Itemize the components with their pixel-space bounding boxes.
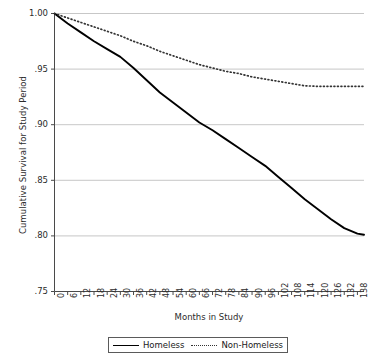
chart-legend: Homeless Non-Homeless	[108, 337, 288, 353]
series-line-non-homeless	[55, 14, 365, 87]
legend-line-solid-icon	[113, 345, 139, 346]
x-axis-tick-label: 138	[361, 282, 369, 297]
x-axis-tick-label: 24	[111, 287, 119, 297]
survival-chart: Cumulative Survival for Study Period .75…	[0, 0, 375, 357]
x-axis-tick-label: 30	[124, 287, 132, 297]
x-axis-tick-label: 48	[163, 287, 171, 297]
x-axis-tick-label: 102	[282, 282, 290, 297]
legend-label-non-homeless: Non-Homeless	[221, 340, 283, 350]
x-axis-tick-label: 54	[177, 287, 185, 297]
x-axis-tick-label: 120	[322, 282, 330, 297]
legend-item-homeless: Homeless	[113, 340, 185, 350]
x-axis-tick-label: 114	[308, 282, 316, 297]
x-axis-tick-label: 42	[150, 287, 158, 297]
x-axis-tick-label: 6	[71, 292, 79, 297]
x-axis-title: Months in Study	[54, 312, 364, 322]
legend-line-dotted-icon	[191, 345, 217, 346]
legend-item-non-homeless: Non-Homeless	[191, 340, 283, 350]
x-axis-tick-label: 12	[84, 287, 92, 297]
legend-label-homeless: Homeless	[143, 340, 185, 350]
x-axis-tick-label: 36	[137, 287, 145, 297]
x-axis-tick-label: 84	[242, 287, 250, 297]
x-axis-tick-label: 66	[203, 287, 211, 297]
plot-area	[0, 0, 375, 357]
x-axis-tick-label: 0	[58, 292, 66, 297]
x-axis-tick-label: 108	[295, 282, 303, 297]
x-axis-tick-label: 126	[335, 282, 343, 297]
x-axis-tick-label: 18	[98, 287, 106, 297]
x-axis-tick-label: 132	[348, 282, 356, 297]
x-axis-tick-label: 90	[256, 287, 264, 297]
x-axis-tick-label: 96	[269, 287, 277, 297]
x-axis-tick-label: 72	[216, 287, 224, 297]
x-axis-tick-label: 60	[190, 287, 198, 297]
x-axis-tick-label: 78	[229, 287, 237, 297]
series-line-homeless	[55, 14, 365, 235]
